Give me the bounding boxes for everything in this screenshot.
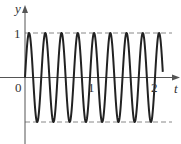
x-tick-label-1: 1 <box>88 80 95 95</box>
y-axis-label: y <box>13 1 21 16</box>
origin-label: 0 <box>15 80 22 95</box>
x-axis-arrow-icon <box>172 75 180 81</box>
x-axis-label: t <box>174 81 178 96</box>
x-tick-label-2: 2 <box>151 80 158 95</box>
chart: y 1 0 1 2 t <box>0 0 181 144</box>
y-tick-label-1: 1 <box>14 26 21 41</box>
y-axis-arrow-icon <box>22 5 28 13</box>
